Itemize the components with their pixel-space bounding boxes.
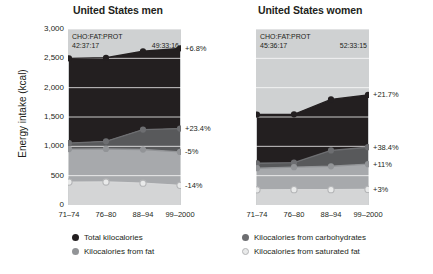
ratio-start: 42:37:17 (72, 41, 99, 50)
pct-change-label: +38.4% (373, 143, 399, 152)
data-point-3-3 (365, 186, 369, 192)
y-axis-tick-group: 3,0002,5002,0001,5001,0005000 (24, 0, 64, 274)
band-fat-to-satfat (69, 149, 180, 185)
y-axis-tick: 1,000 (44, 142, 64, 150)
data-point-2-2 (140, 146, 146, 152)
pct-change-label: -14% (185, 181, 203, 190)
legend-item-kilocalories-from-saturated-fat: Kilocalories from saturated fat (242, 247, 412, 256)
pct-change-label: +21.7% (373, 90, 399, 99)
pct-change-label: -5% (185, 147, 198, 156)
data-point-1-2 (328, 147, 334, 153)
data-point-0-1 (103, 55, 109, 61)
legend-label: Total kilocalories (84, 233, 143, 242)
ratio-header: CHO:FAT:PROT (72, 32, 179, 41)
legend-dot-icon (72, 248, 79, 255)
data-point-2-1 (103, 146, 109, 152)
area-chart-women (256, 29, 369, 205)
y-axis-tick: 2,000 (44, 84, 64, 92)
data-point-3-1 (291, 187, 297, 193)
chart-panel-men (68, 29, 181, 205)
legend-dot-icon (242, 248, 249, 255)
band-below-satfat (69, 182, 180, 205)
legend-item-kilocalories-from-fat: Kilocalories from fat (72, 247, 242, 256)
band-below-satfat (257, 189, 368, 205)
pct-change-label: +23.4% (185, 124, 211, 133)
ratio-annotation-men: CHO:FAT:PROT42:37:1749:33:16 (72, 32, 179, 50)
ratio-end: 49:33:16 (152, 41, 179, 50)
pct-change-label: +3% (373, 185, 388, 194)
chart-legend: Total kilocalories Kilocalories from car… (72, 233, 412, 261)
data-point-3-0 (68, 179, 72, 185)
chart-panel-women (256, 29, 369, 205)
legend-row: Kilocalories from fat Kilocalories from … (72, 247, 412, 256)
data-point-2-2 (328, 163, 334, 169)
legend-item-kilocalories-from-carbohydrates: Kilocalories from carbohydrates (242, 233, 412, 242)
data-point-1-2 (140, 127, 146, 133)
y-axis-tick: 2,500 (44, 54, 64, 62)
y-axis-tick: 0 (60, 201, 64, 209)
y-axis-tick: 1,500 (44, 113, 64, 121)
pct-change-label: +11% (373, 160, 392, 169)
pct-change-label: +6.8% (185, 44, 206, 53)
data-point-3-3 (177, 182, 181, 188)
data-point-2-1 (291, 164, 297, 170)
y-axis-tick: 3,000 (44, 25, 64, 33)
area-chart-men (68, 29, 181, 205)
data-point-1-1 (103, 138, 109, 144)
data-point-0-2 (328, 96, 334, 102)
ratio-annotation-women: CHO:FAT:PROT45:36:1752:33:15 (260, 32, 367, 50)
data-point-3-2 (328, 187, 334, 193)
data-point-3-2 (140, 180, 146, 186)
x-axis-tick: 99–2000 (157, 210, 203, 219)
y-axis-tick: 500 (51, 172, 64, 180)
legend-item-total-kilocalories: Total kilocalories (72, 233, 242, 242)
legend-label: Kilocalories from fat (84, 247, 154, 256)
chart-page: United States men United States women En… (0, 0, 433, 274)
ratio-end: 52:33:15 (340, 41, 367, 50)
legend-label: Kilocalories from carbohydrates (254, 233, 366, 242)
data-point-0-1 (291, 111, 297, 117)
legend-row: Total kilocalories Kilocalories from car… (72, 233, 412, 242)
data-point-3-0 (256, 187, 260, 193)
data-point-3-1 (103, 179, 109, 185)
legend-dot-icon (242, 234, 249, 241)
x-axis-tick: 99–2000 (345, 210, 391, 219)
panel-title-women: United States women (258, 4, 362, 16)
ratio-header: CHO:FAT:PROT (260, 32, 367, 41)
ratio-start: 45:36:17 (260, 41, 287, 50)
legend-label: Kilocalories from saturated fat (254, 247, 360, 256)
legend-dot-icon (72, 234, 79, 241)
panel-title-men: United States men (73, 4, 163, 16)
